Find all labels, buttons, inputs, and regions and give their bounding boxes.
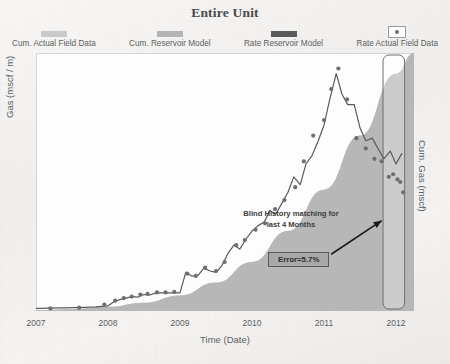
legend-label: Rate Reservoir Model xyxy=(244,40,323,48)
legend-swatch-bar xyxy=(157,31,183,37)
chart-canvas xyxy=(36,53,414,311)
y-axis-label-right: Cum. Gas (mscf) xyxy=(417,140,428,212)
legend-swatch-bar xyxy=(41,31,67,37)
legend-label: Cum. Actual Field Data xyxy=(12,40,96,48)
error-badge: Error=5.7% xyxy=(268,252,329,267)
chart-page: Entire Unit Cum. Actual Field Data Cum. … xyxy=(0,0,450,364)
x-axis-tick-label: 2008 xyxy=(99,318,118,328)
chart-legend: Cum. Actual Field Data Cum. Reservoir Mo… xyxy=(12,26,438,48)
legend-label: Cum. Reservoir Model xyxy=(129,40,210,48)
annotation-note: Blind History matching for last 4 Months xyxy=(243,208,339,230)
x-axis-tick-label: 2007 xyxy=(27,318,46,328)
x-axis-tick-label: 2012 xyxy=(387,318,406,328)
y-axis-label-left: Gas (mscf / m) xyxy=(4,56,15,118)
legend-swatch-bar xyxy=(271,31,297,37)
legend-item-cum-reservoir-model: Cum. Reservoir Model xyxy=(129,31,210,48)
x-axis-tick-label: 2009 xyxy=(171,318,190,328)
plot-area xyxy=(36,53,414,311)
x-axis-label: Time (Date) xyxy=(0,334,450,345)
legend-swatch-marker-icon xyxy=(388,26,406,38)
legend-item-rate-actual-field-data: Rate Actual Field Data xyxy=(357,26,438,48)
legend-item-cum-actual-field-data: Cum. Actual Field Data xyxy=(12,31,96,48)
page-title: Entire Unit xyxy=(0,5,450,21)
x-axis-tick-label: 2010 xyxy=(243,318,262,328)
x-axis-tick-label: 2011 xyxy=(315,318,333,328)
legend-label: Rate Actual Field Data xyxy=(357,40,438,48)
legend-item-rate-reservoir-model: Rate Reservoir Model xyxy=(244,31,323,48)
